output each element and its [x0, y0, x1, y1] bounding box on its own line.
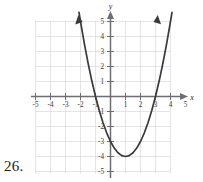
- y-tick-label: 3: [100, 48, 104, 56]
- parabola-curve: [75, 12, 172, 156]
- y-tick-label: 5: [100, 18, 104, 26]
- y-axis: [107, 11, 114, 178]
- y-tick-label: 2: [100, 63, 104, 71]
- x-tick-label: -5: [33, 101, 39, 109]
- x-tick-label: 4: [169, 101, 173, 109]
- problem-number-label: 26.: [4, 158, 23, 175]
- graph-figure: -5 -4 -3 -2 -1 1 2 3 4 5 5 4 3 2 1 -1 -2…: [0, 0, 203, 182]
- grid-lines: [35, 21, 171, 174]
- x-axis: [31, 93, 188, 100]
- y-tick-label: 4: [100, 33, 104, 41]
- coordinate-plane-graph: -5 -4 -3 -2 -1 1 2 3 4 5 5 4 3 2 1 -1 -2…: [0, 0, 203, 182]
- y-tick-label: 1: [100, 78, 104, 86]
- y-tick-label: -4: [98, 153, 104, 161]
- x-tick-label: -4: [48, 101, 54, 109]
- x-tick-label: 2: [139, 101, 143, 109]
- y-tick-label: -3: [98, 138, 104, 146]
- x-axis-label: x: [189, 93, 194, 102]
- x-tick-label: -2: [78, 101, 84, 109]
- x-tick-label: 1: [124, 101, 128, 109]
- x-tick-label: 5: [184, 101, 188, 109]
- x-tick-label: -3: [63, 101, 69, 109]
- y-tick-label: -5: [98, 168, 104, 176]
- y-axis-label: y: [108, 2, 113, 11]
